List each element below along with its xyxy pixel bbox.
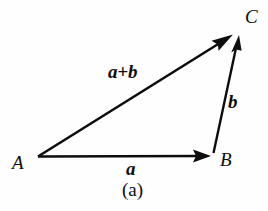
- vector-addition-figure: A B C a+b b a (a): [0, 0, 268, 211]
- figure-caption: (a): [122, 180, 143, 199]
- vector-label-sum: a+b: [108, 62, 137, 81]
- vector-label-a: a: [126, 159, 136, 178]
- vector-sum-arrow: [38, 35, 233, 157]
- point-label-b: B: [220, 150, 232, 169]
- vector-a-arrow: [38, 150, 211, 163]
- vector-label-b: b: [228, 92, 238, 111]
- point-label-a: A: [12, 153, 24, 172]
- point-label-c: C: [245, 7, 258, 26]
